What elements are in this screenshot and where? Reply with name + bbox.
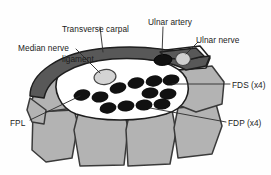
label-transverse-carpal-ligament-line2: ligament — [62, 54, 129, 64]
label-ulnar-nerve: Ulnar nerve — [196, 35, 239, 45]
label-ulnar-artery: Ulnar artery — [148, 17, 192, 27]
carpal-tunnel-cross-section — [0, 0, 271, 175]
ulnar-nerve-structure — [176, 53, 191, 66]
label-transverse-carpal-ligament: Transverse carpal ligament — [62, 4, 129, 84]
label-transverse-carpal-ligament-line1: Transverse carpal — [62, 24, 129, 34]
label-median-nerve: Median nerve — [18, 43, 69, 53]
label-fpl: FPL — [10, 118, 25, 128]
label-fdp: FDP (x4) — [228, 118, 261, 128]
label-fds: FDS (x4) — [232, 80, 266, 90]
figure-canvas: Transverse carpal ligament Ulnar artery … — [0, 0, 271, 175]
